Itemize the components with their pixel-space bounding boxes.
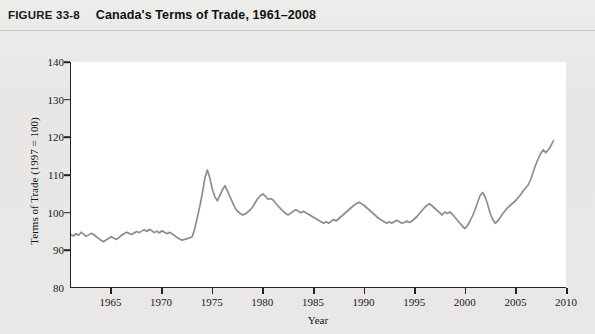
terms-of-trade-line-chart [71,62,566,287]
figure-header: FIGURE 33-8 Canada's Terms of Trade, 196… [0,0,595,30]
x-tick-mark [566,288,568,294]
x-tick-label: 1995 [392,296,436,308]
x-tick-mark [262,288,264,294]
x-tick-mark [465,288,467,294]
x-tick-mark [364,288,366,294]
x-tick-label: 1980 [240,296,284,308]
y-axis-tick-labels: 8090100110120130140 [30,62,64,288]
y-tick-mark [64,61,70,63]
x-tick-label: 1985 [291,296,335,308]
x-tick-label: 1990 [342,296,386,308]
y-tick-mark [64,174,70,176]
x-tick-label: 2005 [493,296,537,308]
y-tick-label: 110 [34,169,64,181]
figure-number: FIGURE 33-8 [8,9,80,21]
y-tick-mark [64,250,70,252]
y-tick-label: 120 [34,131,64,143]
series-line-terms-of-trade [71,141,553,242]
x-tick-mark [414,288,416,294]
x-tick-label: 2010 [544,296,588,308]
y-tick-mark [64,99,70,101]
x-tick-label: 1975 [190,296,234,308]
x-tick-mark [212,288,214,294]
x-tick-mark [161,288,163,294]
figure-title: Canada's Terms of Trade, 1961–2008 [96,8,316,22]
y-tick-label: 90 [34,244,64,256]
x-tick-label: 1965 [88,296,132,308]
x-tick-mark [110,288,112,294]
x-tick-mark [313,288,315,294]
x-axis-title: Year [70,314,566,326]
plot-frame [70,62,566,288]
figure-container: FIGURE 33-8 Canada's Terms of Trade, 196… [0,0,595,334]
chart-area: Terms of Trade (1997 = 100) 809010011012… [0,32,595,334]
y-tick-label: 80 [34,282,64,294]
header-divider [0,30,595,31]
y-tick-label: 130 [34,94,64,106]
y-tick-mark [64,212,70,214]
y-tick-label: 100 [34,207,64,219]
x-tick-label: 1970 [139,296,183,308]
y-tick-mark [64,137,70,139]
y-tick-label: 140 [34,56,64,68]
x-tick-mark [515,288,517,294]
x-tick-label: 2000 [443,296,487,308]
